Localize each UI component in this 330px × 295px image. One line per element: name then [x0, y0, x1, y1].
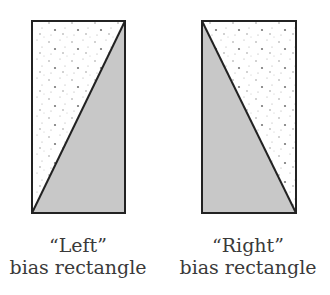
right-caption-title: “Right” [168, 234, 328, 256]
right-caption: “Right” bias rectangle [168, 234, 328, 278]
left-caption: “Left” bias rectangle [0, 234, 158, 278]
left-caption-subtitle: bias rectangle [0, 256, 158, 278]
left-caption-title: “Left” [0, 234, 158, 256]
right-caption-subtitle: bias rectangle [168, 256, 328, 278]
right-bias-rectangle [202, 21, 296, 213]
left-bias-rectangle [32, 21, 125, 213]
